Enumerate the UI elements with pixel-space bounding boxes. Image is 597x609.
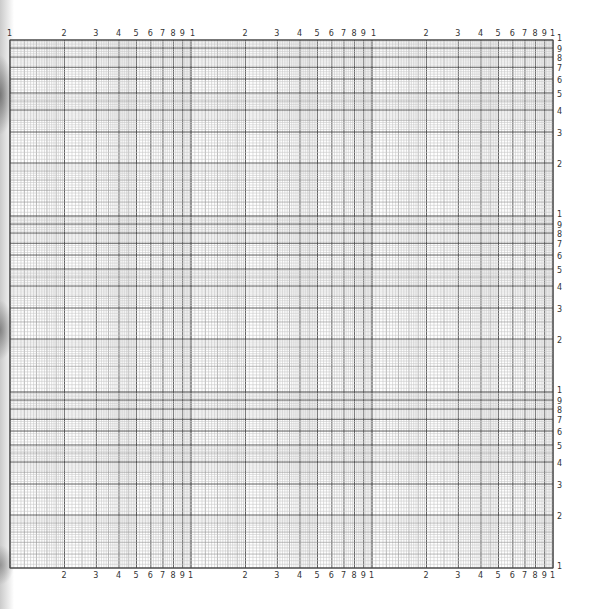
right-axis-label: 8 bbox=[557, 231, 562, 239]
top-axis-label: 7 bbox=[522, 30, 527, 38]
right-axis-label: 7 bbox=[557, 417, 562, 425]
right-axis-label: 3 bbox=[557, 482, 562, 490]
bottom-axis-label: 4 bbox=[478, 572, 483, 580]
top-axis-label: 3 bbox=[93, 30, 98, 38]
right-axis-label: 6 bbox=[557, 429, 562, 437]
bottom-axis-label: 1 bbox=[188, 572, 193, 580]
bottom-axis-label: 8 bbox=[170, 572, 175, 580]
bottom-axis-label: 3 bbox=[455, 572, 460, 580]
top-axis-label: 2 bbox=[242, 30, 247, 38]
bottom-axis-label: 5 bbox=[134, 572, 139, 580]
right-axis-label: 7 bbox=[557, 65, 562, 73]
right-axis-label: 5 bbox=[557, 91, 562, 99]
right-axis-label: 7 bbox=[557, 241, 562, 249]
right-axis-label: 9 bbox=[557, 222, 562, 230]
top-axis-label: 1 bbox=[371, 30, 376, 38]
top-axis-label: 6 bbox=[148, 30, 153, 38]
bottom-axis-label: 9 bbox=[542, 572, 547, 580]
top-axis-label: 1 bbox=[550, 30, 555, 38]
bottom-axis-label: 5 bbox=[496, 572, 501, 580]
right-axis-label: 1 bbox=[557, 387, 562, 395]
top-axis-label: 4 bbox=[116, 30, 121, 38]
right-axis-label: 2 bbox=[557, 513, 562, 521]
right-axis-label: 1 bbox=[557, 563, 562, 571]
right-axis-label: 2 bbox=[557, 337, 562, 345]
right-axis-label: 9 bbox=[557, 398, 562, 406]
bottom-axis-label: 8 bbox=[351, 572, 356, 580]
top-axis-label: 9 bbox=[180, 30, 185, 38]
top-axis-label: 7 bbox=[341, 30, 346, 38]
bottom-axis-label: 6 bbox=[510, 572, 515, 580]
bottom-axis-label: 1 bbox=[550, 572, 555, 580]
bottom-axis-label: 7 bbox=[522, 572, 527, 580]
right-axis-label: 3 bbox=[557, 130, 562, 138]
bottom-axis-label: 4 bbox=[297, 572, 302, 580]
right-axis-label: 1 bbox=[557, 35, 562, 43]
right-axis-label: 5 bbox=[557, 267, 562, 275]
bottom-axis-label: 2 bbox=[61, 572, 66, 580]
bottom-axis-label: 4 bbox=[116, 572, 121, 580]
top-axis-label: 2 bbox=[423, 30, 428, 38]
top-axis-label: 4 bbox=[478, 30, 483, 38]
right-axis-label: 8 bbox=[557, 407, 562, 415]
bottom-axis-label: 6 bbox=[329, 572, 334, 580]
top-axis-label: 9 bbox=[361, 30, 366, 38]
log-log-grid bbox=[0, 0, 597, 609]
top-axis-label: 6 bbox=[510, 30, 515, 38]
top-axis-label: 1 bbox=[7, 30, 12, 38]
top-axis-label: 8 bbox=[170, 30, 175, 38]
top-axis-label: 5 bbox=[315, 30, 320, 38]
bottom-axis-label: 9 bbox=[180, 572, 185, 580]
top-axis-label: 5 bbox=[496, 30, 501, 38]
bottom-axis-label: 3 bbox=[93, 572, 98, 580]
right-axis-label: 2 bbox=[557, 161, 562, 169]
top-axis-label: 7 bbox=[160, 30, 165, 38]
bottom-axis-label: 3 bbox=[274, 572, 279, 580]
bottom-axis-label: 6 bbox=[148, 572, 153, 580]
grid-border bbox=[10, 40, 553, 568]
right-axis-label: 4 bbox=[557, 460, 562, 468]
top-axis-label: 9 bbox=[542, 30, 547, 38]
right-axis-label: 6 bbox=[557, 77, 562, 85]
bottom-axis-label: 9 bbox=[361, 572, 366, 580]
top-axis-label: 8 bbox=[351, 30, 356, 38]
top-axis-label: 3 bbox=[274, 30, 279, 38]
bottom-axis-label: 8 bbox=[532, 572, 537, 580]
top-axis-label: 1 bbox=[190, 30, 195, 38]
bottom-axis-label: 2 bbox=[242, 572, 247, 580]
bottom-axis-label: 7 bbox=[341, 572, 346, 580]
bottom-axis-label: 5 bbox=[315, 572, 320, 580]
right-axis-label: 4 bbox=[557, 284, 562, 292]
top-axis-label: 3 bbox=[455, 30, 460, 38]
right-axis-label: 8 bbox=[557, 55, 562, 63]
right-axis-label: 1 bbox=[557, 211, 562, 219]
bottom-axis-label: 2 bbox=[423, 572, 428, 580]
top-axis-label: 5 bbox=[134, 30, 139, 38]
right-axis-label: 3 bbox=[557, 306, 562, 314]
top-axis-label: 2 bbox=[61, 30, 66, 38]
bottom-axis-label: 1 bbox=[369, 572, 374, 580]
top-axis-label: 6 bbox=[329, 30, 334, 38]
top-axis-label: 4 bbox=[297, 30, 302, 38]
bottom-axis-label: 7 bbox=[160, 572, 165, 580]
right-axis-label: 5 bbox=[557, 443, 562, 451]
right-axis-label: 9 bbox=[557, 46, 562, 54]
right-axis-label: 4 bbox=[557, 108, 562, 116]
top-axis-label: 8 bbox=[532, 30, 537, 38]
right-axis-label: 6 bbox=[557, 253, 562, 261]
